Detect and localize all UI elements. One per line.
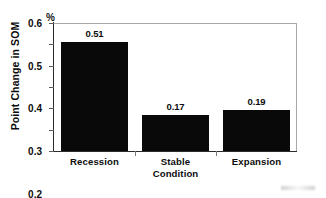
x-category-line: Recession: [54, 156, 135, 168]
bar-value-label: 0.19: [223, 96, 290, 107]
plot-area: 00.10.20.30.40.50.6 0.510.170.19: [54, 23, 297, 151]
y-tick-label: 0.2: [28, 188, 42, 198]
y-tick-label: 0.5: [28, 60, 42, 71]
y-tick-mark: 0.4: [49, 66, 54, 67]
x-category-line: Stable: [135, 156, 216, 168]
y-tick-label: 0.3: [28, 146, 42, 157]
x-category-line: Expansion: [216, 156, 297, 168]
bar: 0.19: [223, 110, 290, 151]
bar-value-label: 0.17: [142, 101, 209, 112]
x-category-label: StableCondition: [135, 156, 216, 180]
y-axis-title: Point Change in SOM: [9, 10, 21, 142]
bar: 0.51: [61, 42, 128, 151]
scan-artifact: [281, 186, 315, 190]
plot-frame-right: [296, 23, 297, 151]
y-tick-mark: 0.6: [49, 23, 54, 24]
y-tick-label: 0.4: [28, 103, 42, 114]
y-tick-mark: 0.3: [49, 87, 54, 88]
bar-chart: Point Change in SOM % 00.10.20.30.40.50.…: [0, 0, 326, 198]
x-category-line: Condition: [135, 168, 216, 180]
plot-frame-top: [54, 23, 297, 24]
y-tick-mark: 0.5: [49, 44, 54, 45]
y-tick-label: 0.6: [28, 18, 42, 29]
y-tick-mark: 0.1: [49, 130, 54, 131]
x-category-label: Expansion: [216, 156, 297, 168]
y-tick-mark: 0.2: [49, 108, 54, 109]
bar-value-label: 0.51: [61, 28, 128, 39]
x-category-label: Recession: [54, 156, 135, 168]
y-tick-mark: 0: [49, 151, 54, 152]
bar: 0.17: [142, 115, 209, 151]
